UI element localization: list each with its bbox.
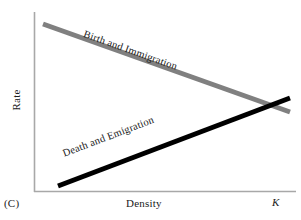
population-regulation-chart: Rate Density K (C) Birth and Immigration… — [0, 0, 301, 220]
x-axis-title: Density — [126, 197, 162, 209]
y-axis-title: Rate — [10, 78, 22, 122]
chart-plot-area — [0, 0, 301, 220]
panel-label: (C) — [4, 197, 19, 209]
carrying-capacity-k-label: K — [272, 196, 280, 208]
